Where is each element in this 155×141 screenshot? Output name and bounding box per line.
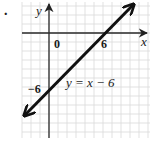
equation-label: y = x − 6	[64, 75, 115, 90]
origin-label: 0	[54, 37, 60, 51]
line-graph: . y x 0 6 −6 y = x − 6	[0, 0, 155, 141]
y-axis-label: y	[34, 3, 42, 18]
y-intercept-label: −6	[28, 82, 41, 96]
x-axis-label: x	[140, 34, 147, 49]
x-intercept-label: 6	[101, 37, 107, 51]
problem-marker: .	[4, 3, 8, 18]
grid	[22, 2, 150, 138]
